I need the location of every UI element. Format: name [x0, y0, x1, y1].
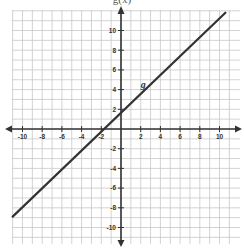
- y-tick-label: -10: [107, 224, 117, 231]
- x-tick-label: 6: [178, 133, 182, 140]
- x-tick-label: 4: [159, 133, 163, 140]
- x-tick-label: 8: [198, 133, 202, 140]
- y-axis-top-arrow-icon: [118, 6, 125, 14]
- x-axis-left-arrow-icon: [5, 126, 12, 133]
- y-tick-label: 10: [109, 27, 117, 34]
- series-g: g: [13, 13, 226, 217]
- x-axis-right-arrow-icon: [235, 126, 242, 133]
- x-tick-label: -6: [59, 133, 65, 140]
- y-tick-label: -6: [110, 184, 116, 191]
- x-tick-label: -10: [18, 133, 28, 140]
- y-axis-bottom-arrow-icon: [118, 240, 125, 247]
- x-tick-label: -4: [79, 133, 85, 140]
- y-tick-label: -8: [110, 204, 116, 211]
- axes: [5, 6, 242, 247]
- x-tick-label: 10: [216, 133, 224, 140]
- y-tick-label: -4: [110, 165, 116, 172]
- x-tick-label: -8: [39, 133, 45, 140]
- coordinate-plane: -10-8-6-4-2246810108642-2-4-6-8-10 g: [0, 0, 244, 250]
- y-tick-label: 2: [112, 106, 116, 113]
- y-tick-label: 8: [112, 47, 116, 54]
- y-tick-label: 4: [112, 86, 116, 93]
- y-tick-label: 6: [112, 66, 116, 73]
- function-label-g: g: [140, 79, 146, 90]
- y-tick-label: -2: [110, 145, 116, 152]
- function-line-g: [13, 13, 226, 217]
- x-tick-label: 2: [139, 133, 143, 140]
- grid-lines: [12, 10, 240, 244]
